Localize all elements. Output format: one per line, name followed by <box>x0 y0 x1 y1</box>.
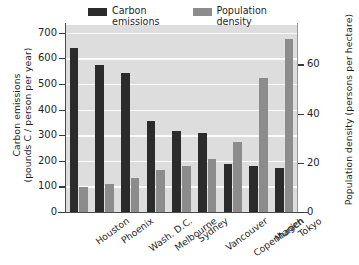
y-axis-right-spine <box>297 23 298 213</box>
y-axis-right-tick <box>298 114 304 115</box>
y-axis-right-tick-label: 20 <box>307 157 320 168</box>
legend-label-carbon-line2: emissions <box>112 17 160 28</box>
y-axis-left-tick-label: 700 <box>38 27 57 38</box>
plot-area <box>66 25 297 212</box>
y-axis-right-tick <box>298 64 304 65</box>
legend-label-population-density: Population density <box>217 6 267 27</box>
bar-carbon-emissions <box>249 166 258 212</box>
legend-swatch-carbon-emissions <box>88 8 107 16</box>
bar-population-density <box>182 166 191 212</box>
y-axis-right-tick-label: 0 <box>307 206 313 217</box>
bar-population-density <box>285 39 294 212</box>
bar-carbon-emissions <box>224 164 233 212</box>
legend-item-carbon-emissions: Carbon emissions <box>88 6 160 27</box>
y-axis-right-tick <box>298 163 304 164</box>
y-axis-right-tick-label: 60 <box>307 58 320 69</box>
bar-population-density <box>131 178 140 212</box>
bar-carbon-emissions <box>172 131 181 212</box>
bar-population-density <box>233 142 242 212</box>
bar-carbon-emissions <box>121 73 130 212</box>
legend-swatch-population-density <box>193 8 212 16</box>
bar-carbon-emissions <box>70 48 79 212</box>
y-axis-left-tick-label: 400 <box>38 104 57 115</box>
y-axis-left-title: Carbon emissions (pounds C / person per … <box>11 20 33 210</box>
bar-carbon-emissions <box>95 65 104 212</box>
y-axis-left-tick <box>59 135 65 136</box>
gridline <box>66 58 297 59</box>
bar-carbon-emissions <box>275 168 284 212</box>
y-axis-left-tick-label: 0 <box>51 206 57 217</box>
legend-item-population-density: Population density <box>193 6 267 27</box>
legend-label-density-line1: Population <box>217 5 267 16</box>
legend-label-carbon-emissions: Carbon emissions <box>112 6 160 27</box>
legend-label-carbon-line1: Carbon <box>112 5 147 16</box>
gridline <box>66 33 297 34</box>
y-axis-left-tick-label: 300 <box>38 129 57 140</box>
y-axis-left-tick <box>59 58 65 59</box>
bar-carbon-emissions <box>198 133 207 212</box>
y-axis-left-tick-label: 500 <box>38 78 57 89</box>
y-axis-left-tick <box>59 186 65 187</box>
chart-figure: Carbon emissions (pounds C / person per … <box>0 0 359 265</box>
y-axis-left-title-line2: (pounds C / person per year) <box>22 20 33 210</box>
y-axis-right-tick-label: 40 <box>307 108 320 119</box>
y-axis-left-tick <box>59 110 65 111</box>
y-axis-right-title: Population density (persons per hectare) <box>343 10 354 210</box>
y-axis-right-title-text: Population density (persons per hectare) <box>343 14 354 205</box>
bar-population-density <box>156 170 165 212</box>
chart-legend: Carbon emissions Population density <box>88 6 267 27</box>
y-axis-left-spine <box>65 23 66 213</box>
bar-carbon-emissions <box>147 121 156 212</box>
y-axis-left-tick <box>59 212 65 213</box>
bar-population-density <box>79 187 88 212</box>
legend-label-density-line2: density <box>217 17 267 28</box>
y-axis-left-tick <box>59 161 65 162</box>
bar-population-density <box>259 78 268 212</box>
y-axis-left-tick-label: 200 <box>38 155 57 166</box>
bar-population-density <box>208 159 217 212</box>
y-axis-right-tick <box>298 212 304 213</box>
x-axis-spine <box>58 212 308 213</box>
y-axis-left-tick <box>59 33 65 34</box>
y-axis-left-tick-label: 600 <box>38 52 57 63</box>
bar-population-density <box>105 184 114 212</box>
y-axis-left-tick-label: 100 <box>38 180 57 191</box>
y-axis-left-title-line1: Carbon emissions <box>11 73 22 156</box>
y-axis-left-tick <box>59 84 65 85</box>
